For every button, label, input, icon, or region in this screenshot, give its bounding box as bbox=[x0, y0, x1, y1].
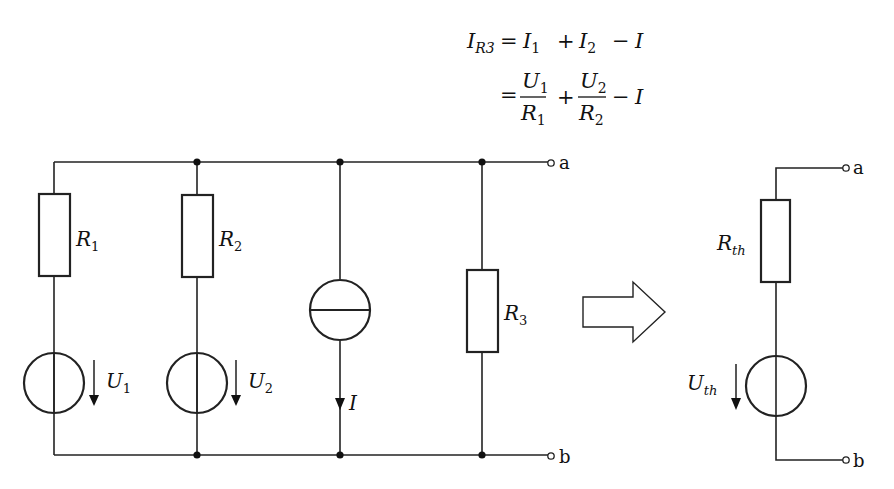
fraction-u1-r1: U1 R1 bbox=[520, 69, 549, 128]
branch-3: I bbox=[310, 162, 370, 455]
terminal-a-label: a bbox=[559, 152, 570, 173]
resistor-r1 bbox=[39, 194, 70, 276]
branch-2: R2 U2 bbox=[167, 162, 273, 455]
label-u2: U2 bbox=[248, 369, 273, 396]
svg-text:U2: U2 bbox=[580, 69, 607, 96]
label-r3: R3 bbox=[503, 301, 527, 328]
terminal-b-label: b bbox=[559, 446, 571, 467]
branch-4: R3 bbox=[467, 162, 527, 455]
label-u1: U1 bbox=[106, 369, 131, 396]
eq-plus-2: + bbox=[557, 85, 575, 109]
eq-lhs: IR3 bbox=[466, 29, 495, 56]
resistor-r2 bbox=[182, 195, 213, 277]
terminal-b bbox=[548, 453, 554, 459]
right-arrow-icon bbox=[583, 282, 665, 342]
original-circuit: R1 U1 R2 U2 bbox=[24, 152, 571, 467]
arrow-down-icon bbox=[231, 360, 241, 406]
junction-node bbox=[478, 451, 485, 458]
fraction-u2-r2: U2 R2 bbox=[578, 69, 607, 128]
eq-equals-1: = bbox=[500, 29, 518, 53]
label-i: I bbox=[348, 391, 358, 415]
svg-text:R1: R1 bbox=[520, 101, 546, 128]
svg-text:R2: R2 bbox=[578, 101, 604, 128]
label-uth: Uth bbox=[687, 371, 717, 398]
eq-term-i1: I1 bbox=[522, 29, 540, 56]
current-arrow-icon bbox=[335, 398, 345, 410]
label-rth: Rth bbox=[716, 231, 746, 258]
label-r1: R1 bbox=[75, 227, 99, 254]
junction-node bbox=[336, 451, 343, 458]
terminal-b-label: b bbox=[853, 450, 865, 471]
junction-node bbox=[193, 451, 200, 458]
eq-term-i-2: I bbox=[634, 85, 644, 109]
eq-plus-1: + bbox=[557, 29, 575, 53]
label-r2: R2 bbox=[218, 227, 242, 254]
eq-minus-1: − bbox=[612, 29, 630, 53]
equation: IR3 = I1 + I2 − I = U1 R1 + U2 R2 − I bbox=[466, 29, 644, 128]
terminal-a bbox=[548, 160, 554, 166]
branch-1: R1 U1 bbox=[24, 162, 131, 455]
wire-to-b bbox=[776, 416, 843, 460]
thevenin-equivalent: Rth Uth a b bbox=[687, 157, 865, 471]
thevenin-diagram: IR3 = I1 + I2 − I = U1 R1 + U2 R2 − I R1 bbox=[0, 0, 894, 489]
wire-to-a bbox=[776, 168, 843, 200]
resistor-rth bbox=[761, 200, 790, 282]
junction-node bbox=[336, 158, 343, 165]
eq-term-i2: I2 bbox=[578, 29, 596, 56]
eq-equals-2: = bbox=[500, 83, 518, 107]
eq-term-i: I bbox=[634, 29, 644, 53]
terminal-a bbox=[843, 165, 849, 171]
junction-node bbox=[478, 158, 485, 165]
eq-minus-2: − bbox=[612, 85, 630, 109]
resistor-r3 bbox=[467, 270, 498, 352]
arrow-down-icon bbox=[731, 364, 741, 410]
terminal-a-label: a bbox=[853, 157, 864, 178]
junction-node bbox=[193, 158, 200, 165]
terminal-b bbox=[843, 457, 849, 463]
svg-text:U1: U1 bbox=[522, 69, 549, 96]
arrow-down-icon bbox=[89, 360, 99, 406]
